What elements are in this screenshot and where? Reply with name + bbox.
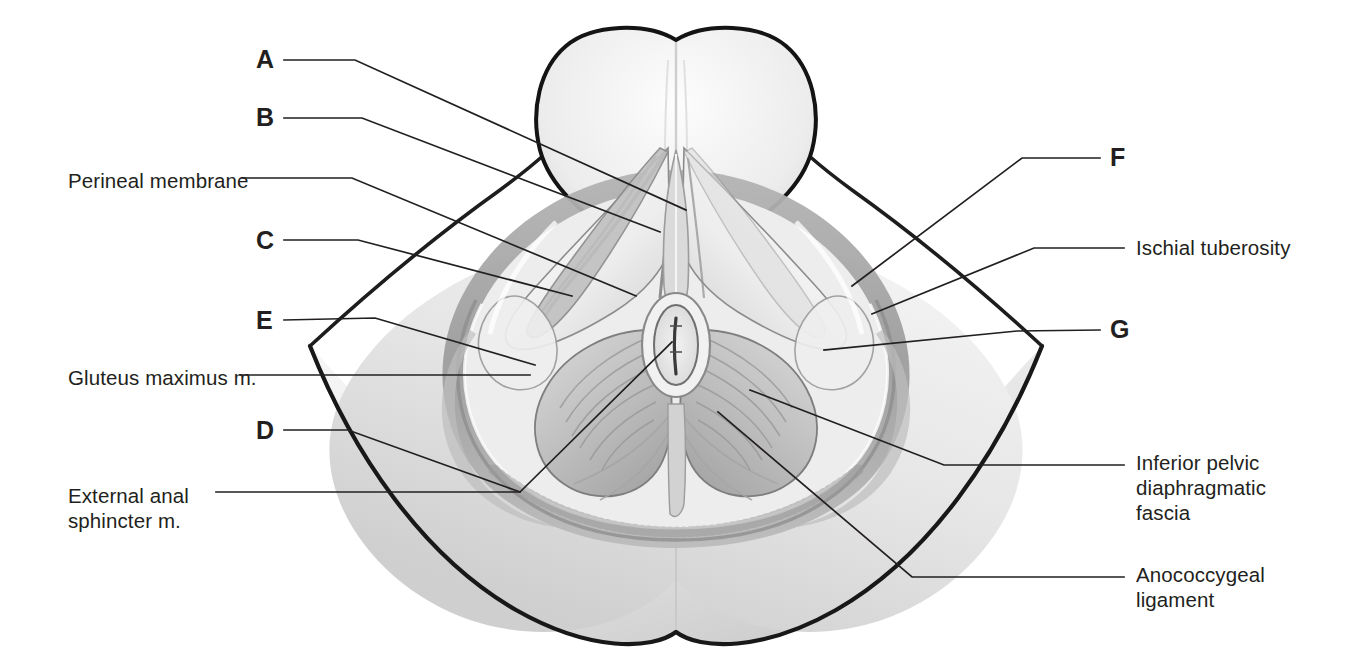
label-gluteus_maximus: Gluteus maximus m. (68, 365, 257, 390)
label-C: C (256, 228, 274, 253)
label-external_anal_sphincter: External anal sphincter m. (68, 483, 189, 533)
label-F: F (1110, 145, 1125, 170)
label-inferior_pelvic_diaphragmatic_fascia: Inferior pelvic diaphragmatic fascia (1136, 450, 1266, 525)
label-A: A (256, 47, 274, 72)
label-B: B (256, 105, 274, 130)
anococcygeal-ligament-band (668, 404, 686, 516)
label-anococcygeal_ligament: Anococcygeal ligament (1136, 562, 1265, 612)
perineum-anatomy-figure (0, 0, 1352, 654)
label-D: D (256, 418, 274, 443)
label-perineal_membrane: Perineal membrane (68, 168, 249, 193)
label-ischial_tuberosity: Ischial tuberosity (1136, 235, 1290, 260)
label-E: E (256, 308, 273, 333)
label-G: G (1110, 317, 1129, 342)
